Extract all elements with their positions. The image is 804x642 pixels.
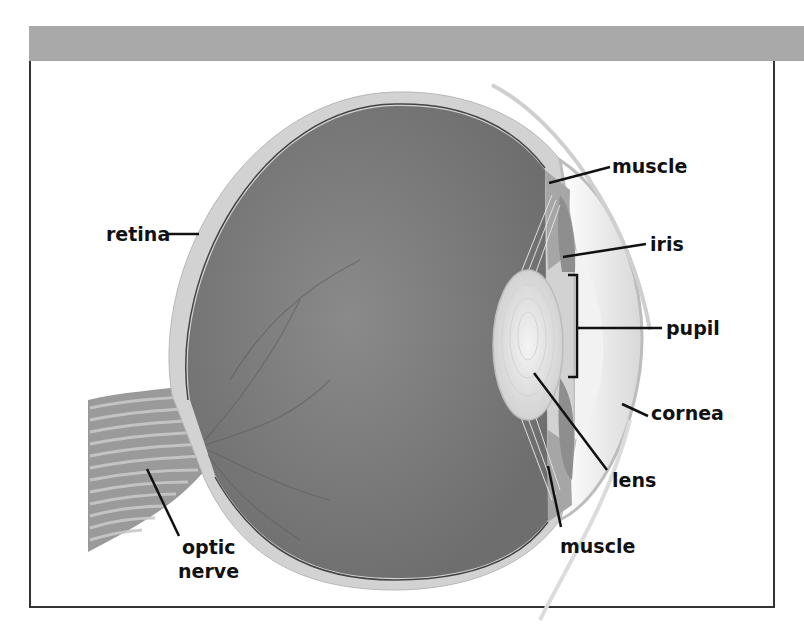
label-optic: optic [182,536,236,558]
label-iris: iris [650,233,684,255]
eye-diagram: muscle iris pupil cornea lens muscle ret… [0,0,804,642]
label-pupil: pupil [666,317,720,339]
label-nerve: nerve [178,560,239,582]
label-cornea: cornea [651,402,724,424]
label-muscle-top: muscle [612,155,687,177]
label-retina: retina [106,223,170,245]
label-lens: lens [612,469,656,491]
label-muscle-bottom: muscle [560,535,635,557]
